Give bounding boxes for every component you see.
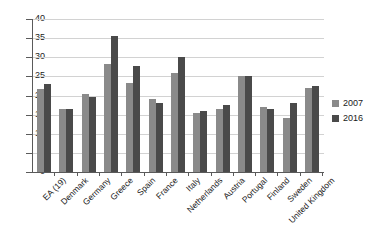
bar <box>245 76 252 172</box>
bar-group <box>189 19 211 172</box>
legend-label: 2007 <box>343 99 363 108</box>
bar <box>89 97 96 172</box>
bar <box>312 86 319 172</box>
bar-group <box>256 19 278 172</box>
bar <box>37 89 44 172</box>
bar <box>156 103 163 172</box>
bar-group <box>301 19 323 172</box>
bar <box>178 57 185 172</box>
bar-group <box>100 19 122 172</box>
bar <box>149 99 156 172</box>
bar <box>44 84 51 172</box>
bar <box>193 113 200 172</box>
bar-group <box>278 19 300 172</box>
legend-swatch-icon <box>332 115 339 122</box>
bar <box>290 103 297 172</box>
legend-item: 2016 <box>332 111 363 126</box>
bar-groups <box>33 19 323 172</box>
bar-group <box>212 19 234 172</box>
bar <box>133 66 140 172</box>
legend-label: 2016 <box>343 114 363 123</box>
bar <box>267 109 274 172</box>
bar-group <box>122 19 144 172</box>
bar-group <box>167 19 189 172</box>
bar <box>171 73 178 172</box>
bar <box>200 111 207 172</box>
bar-chart: 0510152025303540 EA (19)DenmarkGermanyGr… <box>0 0 381 246</box>
x-axis-labels: EA (19)DenmarkGermanyGreeceSpainFranceIt… <box>33 176 323 246</box>
bar <box>111 36 118 172</box>
bar <box>305 88 312 172</box>
bar-group <box>55 19 77 172</box>
chart-legend: 20072016 <box>332 96 363 126</box>
bar <box>260 107 267 172</box>
bar-group <box>234 19 256 172</box>
bar-group <box>33 19 55 172</box>
bar <box>283 118 290 172</box>
bar <box>238 76 245 172</box>
bar-group <box>145 19 167 172</box>
bar <box>66 109 73 172</box>
legend-item: 2007 <box>332 96 363 111</box>
bar <box>126 83 133 172</box>
legend-swatch-icon <box>332 100 339 107</box>
bar-group <box>78 19 100 172</box>
bar <box>104 64 111 172</box>
bar <box>82 94 89 172</box>
bar <box>216 109 223 172</box>
bar <box>223 105 230 172</box>
bar <box>59 109 66 172</box>
